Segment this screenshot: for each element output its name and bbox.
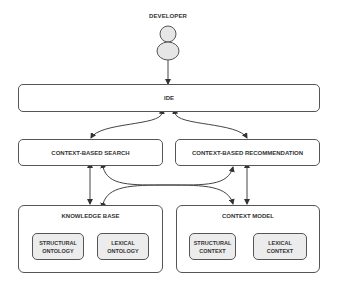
context-model-title: CONTEXT MODEL xyxy=(177,213,319,219)
ide-label: IDE xyxy=(164,94,174,102)
context-based-recommendation-box: CONTEXT-BASED RECOMMENDATION xyxy=(175,139,320,166)
structural-context-label: STRUCTURAL CONTEXT xyxy=(194,239,232,255)
context-based-search-label: CONTEXT-BASED SEARCH xyxy=(51,149,129,157)
knowledge-base-group: KNOWLEDGE BASE STRUCTURAL ONTOLOGY LEXIC… xyxy=(18,205,163,273)
person-icon xyxy=(157,26,179,60)
lexical-ontology-label: LEXICAL ONTOLOGY xyxy=(107,239,138,255)
structural-context-box: STRUCTURAL CONTEXT xyxy=(189,233,236,260)
knowledge-base-title: KNOWLEDGE BASE xyxy=(19,213,162,219)
structural-ontology-box: STRUCTURAL ONTOLOGY xyxy=(32,233,84,260)
structural-ontology-label: STRUCTURAL ONTOLOGY xyxy=(39,239,77,255)
developer-label: DEVELOPER xyxy=(138,13,198,19)
lexical-ontology-box: LEXICAL ONTOLOGY xyxy=(97,233,149,260)
ide-box: IDE xyxy=(18,84,320,112)
lexical-context-box: LEXICAL CONTEXT xyxy=(253,233,307,260)
context-model-group: CONTEXT MODEL STRUCTURAL CONTEXT LEXICAL… xyxy=(176,205,320,273)
lexical-context-label: LEXICAL CONTEXT xyxy=(267,239,293,255)
context-based-recommendation-label: CONTEXT-BASED RECOMMENDATION xyxy=(192,149,303,157)
context-based-search-box: CONTEXT-BASED SEARCH xyxy=(18,139,163,166)
